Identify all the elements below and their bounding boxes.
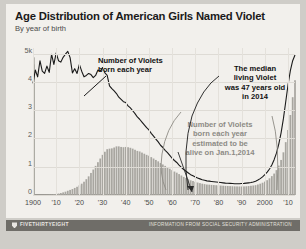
bar [278,166,280,195]
bar [85,179,87,195]
bar [83,182,85,195]
annotation-alive-2014: Number of Violetsborn each yearestimated… [166,120,274,157]
bar [174,172,176,195]
bar [229,186,231,195]
bar [204,184,206,195]
bar [220,186,222,195]
bar [181,175,183,195]
y-axis-tick-label: 3 [28,102,32,111]
page-subtitle: By year of birth [15,24,66,33]
bar [276,170,278,195]
bar [130,148,132,195]
bar [155,160,157,195]
x-gridline [79,48,80,195]
bar [150,157,152,195]
bar [197,183,199,195]
source-label: INFORMATION FROM SOCIAL SECURITY ADMINIS… [149,222,292,227]
x-axis-tick-label: '20 [75,198,84,207]
page-title: Age Distribution of American Girls Named… [15,10,265,22]
bar [178,174,180,195]
bar [262,183,264,195]
y-axis-tick-label: 1 [28,158,32,167]
bar [257,184,259,195]
bar [190,180,192,195]
chart-card: Age Distribution of American Girls Named… [6,4,300,218]
annotation-median-age: The medianliving Violetwas 47 years oldi… [212,64,298,101]
bar [185,178,187,195]
bar [143,154,145,195]
bar [74,188,76,195]
x-axis-tick-label: '70 [191,198,200,207]
bar [269,178,271,195]
bar [285,142,287,195]
bar [106,149,108,195]
y-axis-labels: 012345k [16,42,32,197]
bar [222,186,224,195]
brand-label: FIVETHIRTYEIGHT [20,222,69,227]
x-axis-tick-label: '40 [121,198,130,207]
bar [266,180,268,195]
x-axis-tick-label: '50 [144,198,153,207]
bar [76,187,78,195]
x-axis-tick-label: '60 [167,198,176,207]
bar [238,186,240,195]
y-axis-tick-label: 2 [28,130,32,139]
y-axis-tick-label: 5k [24,45,32,54]
x-axis-labels: 1900'10'20'30'40'50'60'70'80'902000'10 [33,198,295,210]
bar [201,184,203,195]
bar [113,148,115,195]
x-axis-tick-label: '10 [51,198,60,207]
bar [146,155,148,195]
bar [211,185,213,195]
chart-page: Age Distribution of American Girls Named… [0,0,306,249]
bar [136,151,138,195]
x-axis-tick-label: '90 [237,198,246,207]
bar [120,147,122,195]
bar [280,160,282,195]
bar [245,186,247,195]
y-gridline [33,54,295,55]
bar [206,185,208,195]
bar [92,170,94,195]
bar [225,186,227,195]
bar [90,173,92,195]
bar [153,159,155,195]
bar [164,166,166,195]
bar [162,164,164,195]
bar [192,181,194,195]
bar [111,148,113,195]
bar [259,184,261,195]
bar [88,176,90,195]
bar [289,115,291,195]
bar [283,152,285,195]
x-axis-tick-label: '10 [283,198,292,207]
bar [236,186,238,195]
bar [271,176,273,195]
bar [227,186,229,195]
bar [199,183,201,195]
y-axis-tick-label: 0 [28,187,32,196]
y-gridline [33,110,295,111]
bar [183,177,185,195]
x-axis-tick-label: 1900 [25,198,41,207]
bar [250,186,252,195]
bar [292,97,294,195]
bar [255,185,257,195]
bar [132,149,134,195]
bar [176,173,178,195]
x-axis-tick-label: '30 [98,198,107,207]
annotation-born-each-year: Number of Violetsborn each year [98,56,163,75]
bar [95,166,97,195]
bar [252,186,254,196]
bar [134,150,136,195]
bar [167,167,169,195]
bar [243,186,245,195]
bar [215,185,217,195]
bar [109,149,111,195]
bar [160,163,162,195]
bar [127,147,129,195]
shield-icon [12,222,17,228]
bar [208,185,210,195]
bar [234,186,236,195]
bar [169,169,171,195]
